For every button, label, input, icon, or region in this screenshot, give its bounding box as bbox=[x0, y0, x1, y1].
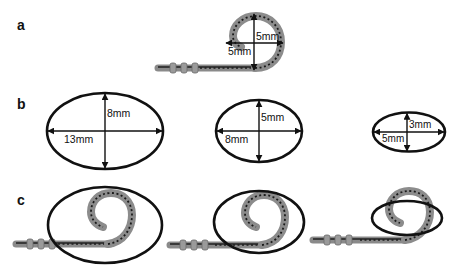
panel-label-c: c bbox=[17, 192, 25, 208]
dimension-label-horizontal: 5mm bbox=[228, 45, 252, 57]
panel-label-a: a bbox=[17, 17, 25, 33]
ellipse-template-large: 8mm 13mm bbox=[47, 93, 163, 169]
catheter-ellipse-figure: a 5mm 5mm bbox=[0, 0, 457, 277]
major-axis-label: 13mm bbox=[64, 133, 93, 145]
catheter-a bbox=[158, 16, 281, 73]
ellipse-template-medium: 5mm 8mm bbox=[216, 100, 302, 162]
marker-rings bbox=[170, 63, 198, 73]
ellipse-template-small: 3mm 5mm bbox=[373, 113, 445, 152]
catheter-overlay-large bbox=[16, 187, 162, 263]
minor-axis-label: 5mm bbox=[261, 111, 285, 123]
panel-c: c bbox=[16, 187, 442, 263]
major-axis-label: 5mm bbox=[382, 133, 404, 144]
dimension-label-vertical: 5mm bbox=[256, 30, 280, 42]
panel-a: a 5mm 5mm bbox=[17, 14, 283, 73]
panel-b: b 8mm 13mm 5mm 8mm 3 bbox=[17, 93, 445, 169]
minor-axis-label: 8mm bbox=[107, 107, 131, 119]
catheter-overlay-small bbox=[313, 191, 442, 245]
major-axis-label: 8mm bbox=[225, 133, 249, 145]
catheter-overlay-medium bbox=[170, 191, 304, 253]
panel-label-b: b bbox=[17, 96, 26, 112]
minor-axis-label: 3mm bbox=[409, 119, 431, 130]
figure-canvas: a 5mm 5mm bbox=[0, 0, 457, 277]
